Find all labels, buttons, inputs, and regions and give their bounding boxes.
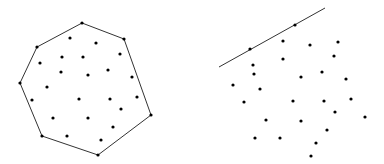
point — [363, 115, 366, 118]
interior-point — [99, 138, 102, 141]
interior-point — [86, 116, 89, 119]
point — [299, 119, 302, 122]
interior-point — [59, 70, 62, 73]
point — [325, 128, 328, 131]
interior-point — [38, 61, 41, 64]
left-panel-convex-hull — [18, 21, 152, 156]
point — [336, 40, 339, 43]
point — [320, 70, 323, 73]
point — [231, 83, 234, 86]
point — [258, 87, 261, 90]
interior-point — [45, 85, 48, 88]
point — [291, 99, 294, 102]
hull-vertex — [96, 153, 99, 156]
point — [314, 141, 317, 144]
interior-point — [130, 75, 133, 78]
line-point — [293, 23, 296, 26]
interior-point — [77, 97, 80, 100]
point — [308, 43, 311, 46]
point — [299, 75, 302, 78]
point — [344, 77, 347, 80]
hull-vertex — [35, 45, 38, 48]
interior-point — [135, 95, 138, 98]
point — [251, 63, 254, 66]
point — [242, 100, 245, 103]
point — [332, 54, 335, 57]
point — [253, 136, 256, 139]
point — [309, 154, 312, 157]
point — [349, 97, 352, 100]
line-point — [248, 47, 251, 50]
hull-vertex — [40, 134, 43, 137]
hull-polygon — [20, 23, 151, 155]
interior-point — [118, 52, 121, 55]
supporting-line — [219, 8, 325, 67]
point — [252, 72, 255, 75]
point — [278, 136, 281, 139]
hull-vertex — [122, 37, 125, 40]
interior-point — [65, 134, 68, 137]
interior-point — [51, 116, 54, 119]
point — [281, 57, 284, 60]
hull-vertex — [149, 113, 152, 116]
interior-point — [86, 73, 89, 76]
point — [322, 99, 325, 102]
point — [333, 110, 336, 113]
interior-point — [81, 55, 84, 58]
hull-vertex — [18, 81, 21, 84]
interior-point — [94, 41, 97, 44]
interior-point — [111, 125, 114, 128]
point — [264, 118, 267, 121]
point — [281, 39, 284, 42]
right-panel-supporting-line — [219, 8, 367, 158]
interior-point — [68, 36, 71, 39]
interior-point — [106, 68, 109, 71]
convex-hull-diagram — [0, 0, 384, 164]
interior-point — [108, 97, 111, 100]
interior-point — [119, 107, 122, 110]
interior-point — [30, 98, 33, 101]
hull-vertex — [80, 21, 83, 24]
interior-point — [60, 55, 63, 58]
